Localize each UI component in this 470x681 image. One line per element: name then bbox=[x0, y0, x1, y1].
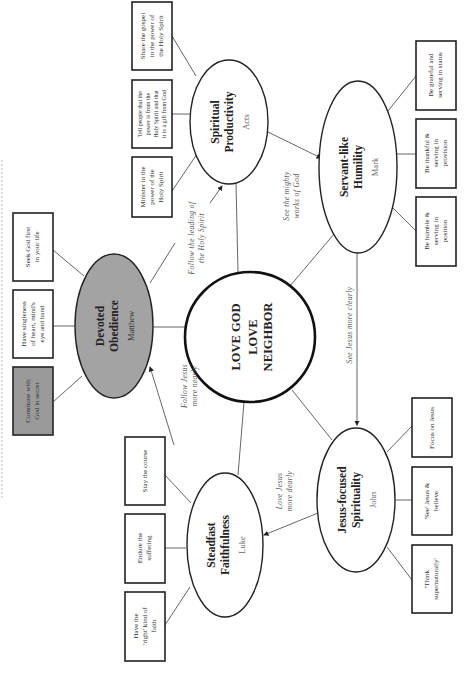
node-title: Spirituality bbox=[350, 472, 363, 528]
connector-matthew-box-3 bbox=[53, 376, 82, 402]
box-line: Minister in the bbox=[139, 166, 147, 207]
box-line: in the power of bbox=[148, 14, 156, 57]
connector-center-john bbox=[292, 390, 332, 440]
john-box-2[interactable]: 'See' Jesus & believe bbox=[412, 467, 452, 535]
node-book: John bbox=[368, 491, 378, 508]
box-line: Tell people that the bbox=[137, 91, 143, 137]
box-line: Be grateful and bbox=[427, 53, 435, 97]
connector-center-mark bbox=[290, 234, 334, 286]
luke-box-2[interactable]: Endure the suffering bbox=[125, 514, 165, 583]
box-line: Be thankful & bbox=[423, 132, 431, 173]
node-title: Faithfulness bbox=[219, 514, 231, 575]
mark-box-1[interactable]: Be grateful and serving in status bbox=[416, 41, 456, 110]
svg-text:See the mighty: See the mighty bbox=[282, 171, 291, 221]
mark-box-2[interactable]: Be thankful & serving in provision bbox=[416, 119, 456, 188]
connector-john-box-3 bbox=[387, 547, 412, 580]
box-line: faith bbox=[150, 619, 158, 632]
box-line: position bbox=[441, 219, 449, 242]
box-line: Be humble & bbox=[423, 212, 431, 250]
node-title: Servant-like bbox=[338, 137, 350, 197]
node-title: Jesus-focused bbox=[336, 466, 348, 534]
luke-box-1[interactable]: Stay the course bbox=[125, 437, 165, 505]
box-line: eye and hand bbox=[38, 305, 46, 342]
box-line: 'right' kind of bbox=[141, 607, 149, 645]
box-line: Seek God first bbox=[24, 227, 32, 267]
acts-box-3[interactable]: Share the gospel in the power of the Hol… bbox=[132, 2, 172, 70]
box-line: Endure the bbox=[136, 533, 144, 564]
connector-center-acts bbox=[236, 183, 238, 272]
label-luke-to-matthew: Follow Jesus more nearly bbox=[180, 364, 199, 409]
luke-box-3[interactable]: Have the 'right' kind of faith bbox=[125, 592, 165, 661]
node-luke[interactable]: Steadfast Faithfulness Luke bbox=[187, 473, 263, 617]
box-line: in your life bbox=[33, 231, 41, 262]
connector-mark-box-1 bbox=[388, 76, 416, 111]
center-line-1: LOVE GOD bbox=[229, 303, 243, 370]
box-line: it is a gift from God bbox=[161, 90, 167, 138]
box-line: of heart, mind's bbox=[29, 302, 37, 346]
node-mark[interactable]: Servant-like Humility Mark bbox=[319, 81, 397, 253]
connector-john-box-1 bbox=[387, 426, 412, 452]
label-matthew-to-acts: Follow the leading of the Holy Spirit bbox=[187, 201, 206, 275]
node-title: Productivity bbox=[223, 91, 236, 152]
matthew-box-2[interactable]: Have singleness of heart, mind's eye and… bbox=[13, 290, 53, 358]
box-line: Have the bbox=[132, 613, 140, 638]
node-title: Devoted bbox=[94, 305, 106, 346]
box-line: Focus on Jesus bbox=[428, 407, 436, 449]
connector-luke-box-1 bbox=[165, 475, 191, 503]
center-line-3: NEIGHBOR bbox=[261, 302, 275, 372]
center-line-2: LOVE bbox=[246, 319, 260, 354]
center-node[interactable]: LOVE GOD LOVE NEIGHBOR bbox=[185, 272, 315, 402]
node-book: Acts bbox=[241, 114, 251, 130]
box-line: Holy Spirit and that bbox=[153, 90, 159, 138]
arrow-john-to-luke bbox=[264, 513, 318, 535]
box-line: serving in status bbox=[436, 52, 444, 98]
svg-text:works of God: works of God bbox=[292, 173, 301, 218]
label-john-to-luke: Love Jesus more dearly bbox=[275, 470, 294, 511]
node-title: Spiritual bbox=[209, 100, 222, 143]
box-line: the Holy Spirit bbox=[157, 15, 165, 57]
john-box-3[interactable]: 'Think supernaturally' bbox=[412, 545, 452, 613]
node-title: Steadfast bbox=[205, 522, 217, 568]
node-book: Mark bbox=[370, 157, 380, 176]
svg-text:See Jesus more clearly: See Jesus more clearly bbox=[345, 286, 354, 363]
mark-box-3[interactable]: Be humble & serving in position bbox=[416, 197, 456, 266]
svg-text:Follow the leading of: Follow the leading of bbox=[187, 201, 196, 275]
matthew-box-1[interactable]: Seek God first in your life bbox=[13, 213, 53, 281]
connector-matthew-acts bbox=[150, 243, 175, 283]
box-line: provision bbox=[441, 139, 449, 166]
svg-text:Love Jesus: Love Jesus bbox=[275, 473, 284, 511]
box-line: God in secret bbox=[33, 382, 41, 419]
box-line: believe bbox=[432, 491, 440, 511]
node-acts[interactable]: Spiritual Productivity Acts bbox=[190, 60, 268, 184]
svg-text:Follow Jesus: Follow Jesus bbox=[180, 364, 189, 409]
svg-text:more nearly: more nearly bbox=[190, 365, 199, 406]
connector-matthew-box-1 bbox=[53, 250, 84, 276]
matthew-box-3[interactable]: Commune with God in secret bbox=[13, 367, 53, 435]
svg-text:more dearly: more dearly bbox=[285, 470, 294, 511]
node-title: Humility bbox=[352, 145, 365, 189]
arrow-luke-to-matthew bbox=[150, 367, 174, 445]
label-mark-to-john: See Jesus more clearly bbox=[345, 286, 354, 363]
box-line: supernaturally' bbox=[432, 558, 440, 599]
acts-box-2[interactable]: Tell people that the power is from the H… bbox=[132, 80, 172, 148]
box-line: serving in bbox=[432, 139, 440, 167]
concept-map: LOVE GOD LOVE NEIGHBOR Devoted Obedience… bbox=[0, 0, 470, 681]
box-line: power is from the bbox=[145, 92, 151, 135]
node-matthew[interactable]: Devoted Obedience Matthew bbox=[75, 254, 153, 398]
label-acts-to-mark: See the mighty works of God bbox=[282, 171, 301, 221]
box-line: Share the gospel bbox=[139, 13, 147, 59]
svg-text:the Holy Spirit: the Holy Spirit bbox=[197, 212, 206, 263]
connector-acts-box-1 bbox=[172, 154, 197, 191]
node-book: Luke bbox=[237, 536, 247, 554]
box-line: power of the bbox=[148, 169, 156, 204]
box-line: 'See' Jesus & bbox=[423, 482, 431, 519]
box-line: Have singleness bbox=[20, 301, 28, 347]
acts-box-1[interactable]: Minister in the power of the Holy Spirit bbox=[132, 157, 172, 217]
box-line: 'Think bbox=[423, 570, 431, 588]
connector-acts-box-3 bbox=[172, 36, 196, 76]
john-box-1[interactable]: Focus on Jesus bbox=[412, 398, 452, 457]
node-book: Matthew bbox=[126, 310, 136, 341]
node-john[interactable]: Jesus-focused Spirituality John bbox=[317, 428, 395, 572]
connector-center-luke bbox=[238, 402, 244, 475]
box-line: suffering bbox=[145, 535, 153, 561]
